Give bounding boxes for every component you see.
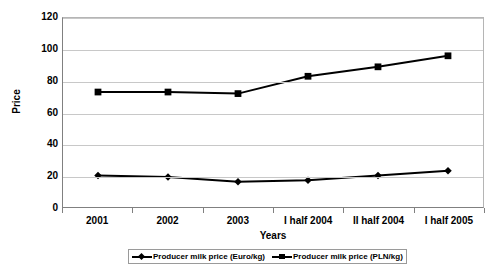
legend-square-icon: [272, 252, 292, 261]
legend-entry: Producer milk price (Euro/kg): [132, 252, 265, 261]
x-tick-label: I half 2004: [284, 215, 332, 226]
x-tick-mark: [203, 208, 204, 213]
data-point-diamond: [444, 167, 452, 175]
x-tick-label: II half 2004: [353, 215, 404, 226]
data-point-diamond: [94, 172, 102, 180]
x-tick-mark: [273, 208, 274, 213]
x-tick-mark: [132, 208, 133, 213]
x-tick-label: 2003: [227, 215, 249, 226]
data-point-square: [305, 73, 312, 80]
x-tick-label: I half 2005: [425, 215, 473, 226]
data-point-square: [445, 52, 452, 59]
x-axis-title: Years: [62, 230, 484, 241]
gridline: [63, 114, 483, 115]
line-chart: Price 020406080100120 200120022003I half…: [0, 0, 501, 273]
series-2: [95, 52, 452, 97]
legend-label: Producer milk price (Euro/kg): [153, 252, 265, 261]
y-tick-label: 20: [22, 171, 58, 181]
x-axis-tick-labels: 200120022003I half 2004II half 2004I hal…: [62, 215, 484, 229]
x-axis-ticks: [62, 208, 484, 214]
x-tick-mark: [343, 208, 344, 213]
plot-area: [62, 17, 484, 208]
x-tick-mark: [484, 208, 485, 213]
y-tick-label: 40: [22, 139, 58, 149]
data-point-square: [165, 89, 172, 96]
data-point-diamond: [234, 178, 242, 186]
gridline: [63, 18, 483, 19]
y-tick-label: 0: [22, 203, 58, 213]
x-tick-label: 2002: [156, 215, 178, 226]
data-point-square: [375, 63, 382, 70]
legend-diamond-icon: [132, 252, 152, 261]
data-point-diamond: [374, 172, 382, 180]
y-tick-label: 60: [22, 108, 58, 118]
legend-entry: Producer milk price (PLN/kg): [272, 252, 403, 261]
gridline: [63, 50, 483, 51]
x-tick-mark: [62, 208, 63, 213]
series-line: [98, 56, 448, 94]
legend-label: Producer milk price (PLN/kg): [293, 252, 403, 261]
gridline: [63, 177, 483, 178]
x-tick-label: 2001: [86, 215, 108, 226]
data-point-square: [95, 89, 102, 96]
y-tick-label: 80: [22, 76, 58, 86]
series-layer: [63, 18, 483, 207]
y-tick-label: 100: [22, 44, 58, 54]
y-axis-tick-labels: 020406080100120: [20, 0, 58, 273]
chart-legend: Producer milk price (Euro/kg)Producer mi…: [128, 249, 407, 264]
gridline: [63, 145, 483, 146]
data-point-square: [235, 90, 242, 97]
x-tick-mark: [414, 208, 415, 213]
gridline: [63, 82, 483, 83]
y-tick-label: 120: [22, 12, 58, 22]
